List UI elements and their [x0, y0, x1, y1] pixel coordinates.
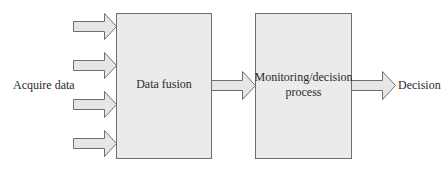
input-arrow-3: [74, 92, 117, 118]
input-arrow-4: [74, 131, 117, 157]
input-arrow-2: [74, 53, 117, 79]
monitoring-label-line1: Monitoring/decision: [252, 70, 355, 85]
fusion-to-monitoring-arrow: [212, 72, 256, 100]
acquire-data-label: Acquire data: [13, 78, 75, 92]
input-arrow-1: [74, 14, 117, 40]
monitoring-label-line2: process: [252, 85, 355, 100]
output-decision-arrow: [352, 72, 396, 100]
data-fusion-label: Data fusion: [116, 77, 212, 92]
decision-output-label: Decision: [398, 78, 441, 92]
monitoring-decision-label: Monitoring/decision process: [252, 70, 355, 100]
